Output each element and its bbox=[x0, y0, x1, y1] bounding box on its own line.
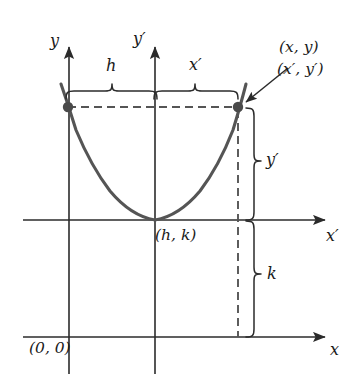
brace-h bbox=[66, 84, 157, 99]
brace-label-x-prime: x′ bbox=[189, 57, 202, 73]
brace-k bbox=[246, 221, 261, 337]
x-prime-axis-label: x′ bbox=[326, 228, 339, 244]
brace-y-prime bbox=[246, 108, 261, 220]
diagram-svg bbox=[0, 0, 353, 385]
brace-x-prime bbox=[154, 84, 238, 99]
point-label-xy: (x, y) bbox=[279, 40, 318, 56]
brace-label-y-prime: y′ bbox=[266, 152, 279, 168]
point-right-marker bbox=[233, 102, 243, 112]
point-left-marker bbox=[63, 102, 73, 112]
figure-canvas: y y′ x x′ h x′ y′ k (x, y) (x′, y′) (h, … bbox=[0, 0, 353, 385]
origin-label: (0, 0) bbox=[29, 341, 71, 357]
brace-label-h: h bbox=[106, 58, 116, 74]
x-axis-label: x bbox=[330, 342, 339, 358]
y-axis-label: y bbox=[50, 33, 59, 49]
brace-label-k: k bbox=[267, 266, 277, 282]
parabola-curve bbox=[61, 84, 246, 220]
point-label-xy-prime: (x′, y′) bbox=[277, 62, 324, 78]
vertex-label: (h, k) bbox=[155, 228, 196, 244]
y-prime-axis-label: y′ bbox=[133, 31, 146, 47]
